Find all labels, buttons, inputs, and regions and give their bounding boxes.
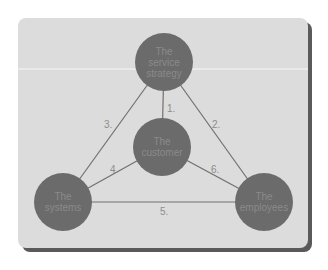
edge-label: 6. — [211, 164, 219, 175]
node-label-line: employees — [240, 202, 288, 213]
edge-label: 5. — [160, 206, 168, 217]
node-label-line: customer — [141, 147, 183, 158]
edge-label: 1. — [167, 103, 175, 114]
nodes: TheservicestrategyThecustomerThesystemsT… — [34, 33, 293, 231]
node-label-line: strategy — [146, 68, 182, 79]
node-service-strategy: Theservicestrategy — [135, 33, 193, 91]
node-label-line: service — [148, 57, 180, 68]
relationship-diagram: TheservicestrategyThecustomerThesystemsT… — [0, 0, 328, 270]
node-label-line: systems — [45, 202, 82, 213]
node-label-line: The — [54, 191, 72, 202]
node-label-line: The — [255, 191, 273, 202]
node-label-line: The — [153, 136, 171, 147]
diagram-stage: TheservicestrategyThecustomerThesystemsT… — [0, 0, 328, 270]
node-label-line: The — [155, 46, 173, 57]
node-customer: Thecustomer — [133, 118, 191, 176]
edge-label: 4. — [110, 164, 118, 175]
edge-label: 3. — [104, 119, 112, 130]
edge-label: 2. — [212, 119, 220, 130]
node-systems: Thesystems — [34, 173, 92, 231]
node-employees: Theemployees — [235, 173, 293, 231]
